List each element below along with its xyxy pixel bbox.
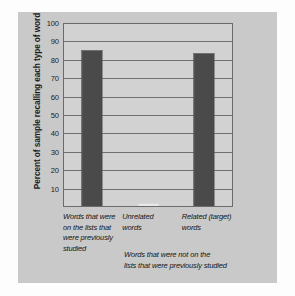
x-label-line: words (122, 223, 178, 234)
x-label-line: words (182, 223, 238, 234)
y-axis-tick-labels: 100908070605040302010 (26, 11, 59, 207)
bar-slot-1 (120, 24, 176, 206)
y-tick-100: 100 (26, 19, 59, 28)
x-label-line: were previously (63, 233, 119, 244)
y-tick-90: 90 (26, 37, 59, 46)
bar-0[interactable] (81, 50, 102, 206)
y-tick-50: 50 (26, 111, 59, 120)
y-tick-10: 10 (26, 184, 59, 193)
x-label-line: Unrelated (122, 212, 178, 223)
annotation-line: lists that were previously studied (124, 261, 274, 272)
annotation-line: Words that were not on the (124, 250, 274, 261)
x-label-line: Words that were (63, 212, 119, 223)
x-label-1: Unrelatedwords (122, 212, 181, 255)
x-label-line: studied (63, 244, 119, 255)
chart-figure: Percent of sample recalling each type of… (0, 0, 295, 296)
y-tick-20: 20 (26, 166, 59, 175)
y-tick-60: 60 (26, 92, 59, 101)
x-label-2: Related (target)words (182, 212, 241, 255)
bar-slot-2 (176, 24, 232, 206)
plot-area (63, 23, 233, 207)
x-label-0: Words that wereon the lists thatwere pre… (63, 212, 122, 255)
bar-slot-0 (64, 24, 120, 206)
y-tick-40: 40 (26, 129, 59, 138)
x-axis-annotation: Words that were not on thelists that wer… (124, 250, 274, 271)
bar-1[interactable] (137, 203, 158, 206)
y-tick-80: 80 (26, 55, 59, 64)
y-tick-30: 30 (26, 147, 59, 156)
y-tick-70: 70 (26, 74, 59, 83)
x-label-line: Related (target) (182, 212, 238, 223)
x-axis-labels: Words that wereon the lists thatwere pre… (63, 212, 241, 255)
x-label-line: on the lists that (63, 223, 119, 234)
bar-2[interactable] (193, 53, 214, 206)
